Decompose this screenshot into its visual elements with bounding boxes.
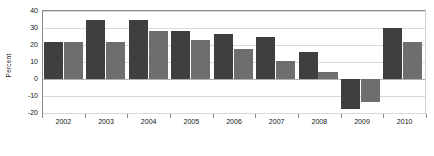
y-axis-tick-label: 0 bbox=[34, 75, 38, 82]
bar bbox=[64, 42, 83, 79]
x-axis-tick-label: 2004 bbox=[141, 118, 157, 125]
bar bbox=[86, 20, 105, 79]
y-axis-title: Percent bbox=[0, 0, 18, 130]
x-axis-tick bbox=[426, 114, 427, 118]
bar-group bbox=[340, 11, 382, 113]
bar bbox=[299, 52, 318, 79]
y-axis-tick-label: 30 bbox=[30, 24, 38, 31]
y-axis-tick-label: 10 bbox=[30, 58, 38, 65]
bar-group bbox=[213, 11, 255, 113]
bar bbox=[191, 40, 210, 79]
bar-group bbox=[85, 11, 127, 113]
bar bbox=[234, 49, 253, 79]
y-axis-tick-label: 20 bbox=[30, 41, 38, 48]
bar bbox=[171, 31, 190, 79]
y-axis-tick-labels: 403020100-10-20 bbox=[18, 10, 40, 114]
y-axis-tick-label: -10 bbox=[28, 92, 38, 99]
bar bbox=[106, 42, 125, 79]
bar bbox=[383, 28, 402, 79]
bar-group bbox=[255, 11, 297, 113]
x-axis-tick-label: 2005 bbox=[184, 118, 200, 125]
bar bbox=[214, 34, 233, 79]
x-axis-tick-label: 2006 bbox=[226, 118, 242, 125]
bar-group bbox=[128, 11, 170, 113]
bars-layer bbox=[43, 11, 425, 113]
bar bbox=[403, 42, 422, 79]
x-axis-tick-label: 2008 bbox=[312, 118, 328, 125]
bar bbox=[361, 79, 380, 102]
x-axis-tick-label: 2007 bbox=[269, 118, 285, 125]
bar bbox=[256, 37, 275, 80]
bar bbox=[318, 72, 337, 79]
bar-group bbox=[170, 11, 212, 113]
y-axis-tick-label: 40 bbox=[30, 7, 38, 14]
bar bbox=[341, 79, 360, 109]
x-axis-tick-labels: 200220032004200520062007200820092010 bbox=[42, 118, 426, 132]
x-axis-tick-label: 2009 bbox=[354, 118, 370, 125]
x-axis-tick-label: 2010 bbox=[397, 118, 413, 125]
bar-group bbox=[43, 11, 85, 113]
bar bbox=[129, 20, 148, 80]
y-axis-tick-label: -20 bbox=[28, 109, 38, 116]
plot-area bbox=[42, 10, 426, 114]
bar bbox=[149, 31, 168, 79]
bar bbox=[276, 61, 295, 79]
x-axis-tick-label: 2002 bbox=[56, 118, 72, 125]
bar bbox=[44, 42, 63, 79]
y-axis-title-text: Percent bbox=[6, 53, 13, 77]
bar-group bbox=[298, 11, 340, 113]
x-axis-tick-label: 2003 bbox=[98, 118, 114, 125]
bar-chart: Percent 403020100-10-20 2002200320042005… bbox=[0, 0, 434, 156]
bar-group bbox=[383, 11, 425, 113]
